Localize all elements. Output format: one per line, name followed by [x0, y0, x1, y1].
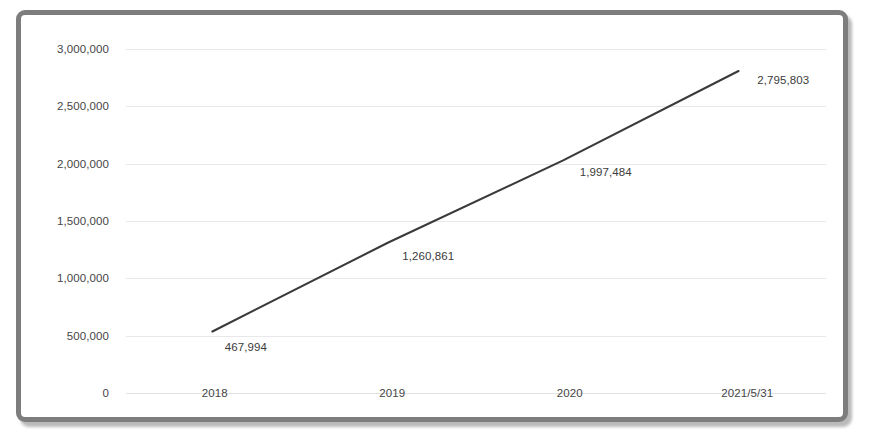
x-axis-tick-label: 2018	[202, 387, 228, 399]
x-axis-tick-label: 2020	[557, 387, 583, 399]
x-axis-tick-label: 2019	[379, 387, 405, 399]
line-series	[21, 15, 843, 417]
chart-frame: 0500,0001,000,0001,500,0002,000,0002,500…	[16, 10, 848, 422]
x-axis-tick-label: 2021/5/31	[721, 387, 773, 399]
series-polyline	[212, 71, 738, 331]
data-point-label: 1,260,861	[402, 250, 454, 262]
x-axis-tick-labels: 2018201920202021/5/31	[126, 387, 826, 403]
chart-plot-area: 0500,0001,000,0001,500,0002,000,0002,500…	[21, 15, 843, 417]
data-point-label: 467,994	[225, 341, 267, 353]
data-point-label: 1,997,484	[580, 166, 632, 178]
data-point-label: 2,795,803	[757, 74, 809, 86]
